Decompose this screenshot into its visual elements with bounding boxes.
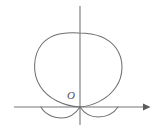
x-axis-arrowhead [143, 104, 151, 111]
plot-canvas [0, 0, 161, 131]
origin-label: O [67, 90, 75, 101]
main-loop-curve [35, 33, 122, 107]
figure-container: O [0, 0, 161, 131]
lower-right-lobe-curve [80, 107, 118, 117]
lower-left-lobe-curve [41, 107, 80, 118]
